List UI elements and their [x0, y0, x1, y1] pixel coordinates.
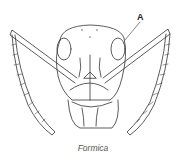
- left-antenna-scape: [10, 30, 77, 83]
- callout-leader-line: [125, 22, 140, 40]
- ant-head-drawing: [0, 0, 186, 167]
- right-eye: [111, 38, 125, 60]
- head-outline: [56, 25, 125, 100]
- left-eye: [57, 38, 71, 60]
- figure-caption: Formica: [0, 143, 186, 153]
- callout-label-a: A: [137, 12, 144, 22]
- left-antenna-funiculus: [12, 35, 55, 135]
- right-antenna-funiculus: [127, 34, 170, 135]
